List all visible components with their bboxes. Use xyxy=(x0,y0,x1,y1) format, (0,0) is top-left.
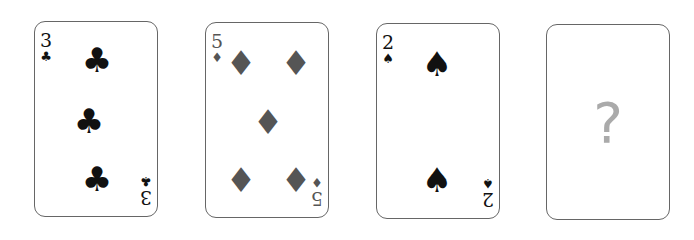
diamond-icon: ♦ xyxy=(224,163,258,197)
card-3-of-clubs[interactable]: 3♣ ♣ ♣ ♣ 3♣ xyxy=(34,21,158,217)
spade-icon: ♠ xyxy=(380,52,396,65)
diamond-icon: ♦ xyxy=(251,105,285,139)
card-unknown[interactable]: ? xyxy=(546,24,670,220)
card-5-of-diamonds[interactable]: 5♦ ♦ ♦ ♦ ♦ ♦ 5♦ xyxy=(205,22,329,218)
diamond-icon: ♦ xyxy=(209,51,225,64)
spade-icon: ♠ xyxy=(420,47,454,81)
diamond-icon: ♦ xyxy=(279,46,313,80)
card-2-of-spades[interactable]: 2♠ ♠ ♠ 2♠ xyxy=(376,23,500,219)
rank-label: 2 xyxy=(480,190,496,209)
club-icon: ♣ xyxy=(80,43,114,77)
diamond-icon: ♦ xyxy=(309,176,325,189)
card-index-top: 2♠ xyxy=(380,33,396,65)
card-index-bottom: 2♠ xyxy=(480,177,496,209)
rank-label: 3 xyxy=(38,31,54,50)
rank-label: 5 xyxy=(209,32,225,51)
club-icon: ♣ xyxy=(80,162,114,196)
card-index-bottom: 3♣ xyxy=(138,175,154,207)
club-icon: ♣ xyxy=(72,104,106,138)
diamond-icon: ♦ xyxy=(279,163,313,197)
rank-label: 3 xyxy=(138,188,154,207)
spade-icon: ♠ xyxy=(480,177,496,190)
rank-label: 5 xyxy=(309,189,325,208)
rank-label: 2 xyxy=(380,33,396,52)
diamond-icon: ♦ xyxy=(224,46,258,80)
club-icon: ♣ xyxy=(38,50,54,63)
club-icon: ♣ xyxy=(138,175,154,188)
card-index-top: 5♦ xyxy=(209,32,225,64)
card-index-top: 3♣ xyxy=(38,31,54,63)
question-mark-icon: ? xyxy=(593,90,623,155)
spade-icon: ♠ xyxy=(420,163,454,197)
card-index-bottom: 5♦ xyxy=(309,176,325,208)
